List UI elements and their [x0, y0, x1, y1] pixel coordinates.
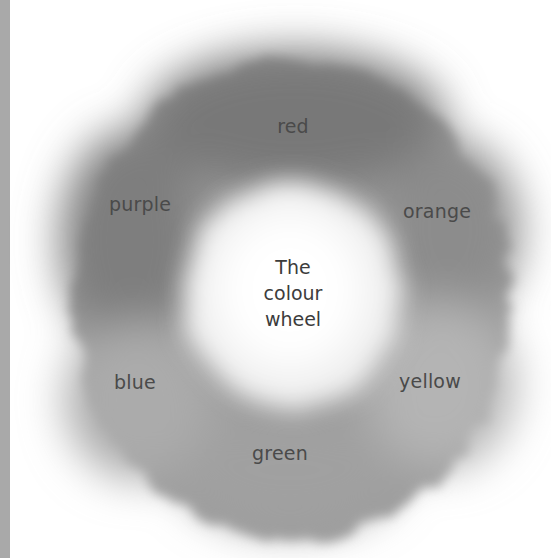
label-green: green — [252, 442, 308, 464]
label-red: red — [277, 115, 309, 137]
label-blue: blue — [114, 371, 156, 393]
wheel-title-line-2: colour — [238, 280, 348, 306]
wheel-title: The colour wheel — [238, 254, 348, 332]
label-orange: orange — [403, 200, 471, 222]
label-purple: purple — [109, 193, 171, 215]
wheel-title-line-1: The — [238, 254, 348, 280]
label-yellow: yellow — [399, 370, 461, 392]
wheel-title-line-3: wheel — [238, 306, 348, 332]
